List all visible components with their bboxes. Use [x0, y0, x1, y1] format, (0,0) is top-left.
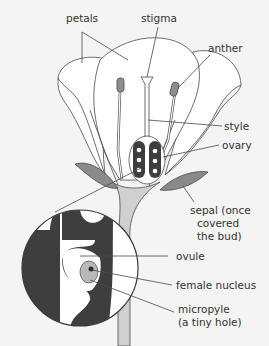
label-micropyle-line1: micropyle — [178, 303, 230, 315]
label-petals: petals — [66, 12, 98, 24]
label-stigma: stigma — [141, 12, 177, 24]
label-sepal-line1: sepal (once — [190, 204, 251, 216]
label-sepal-line3: the bud) — [197, 230, 242, 242]
label-style: style — [224, 120, 249, 132]
label-female-nucleus: female nucleus — [176, 279, 256, 291]
label-ovary: ovary — [222, 139, 252, 151]
label-ovule: ovule — [176, 250, 205, 262]
label-micropyle-line2: (a tiny hole) — [178, 316, 242, 328]
flower-diagram: petals stigma anther style ovary sepal (… — [0, 0, 269, 346]
label-anther: anther — [208, 42, 243, 54]
anther-left — [117, 78, 124, 92]
label-sepal-line2: covered — [197, 217, 239, 229]
